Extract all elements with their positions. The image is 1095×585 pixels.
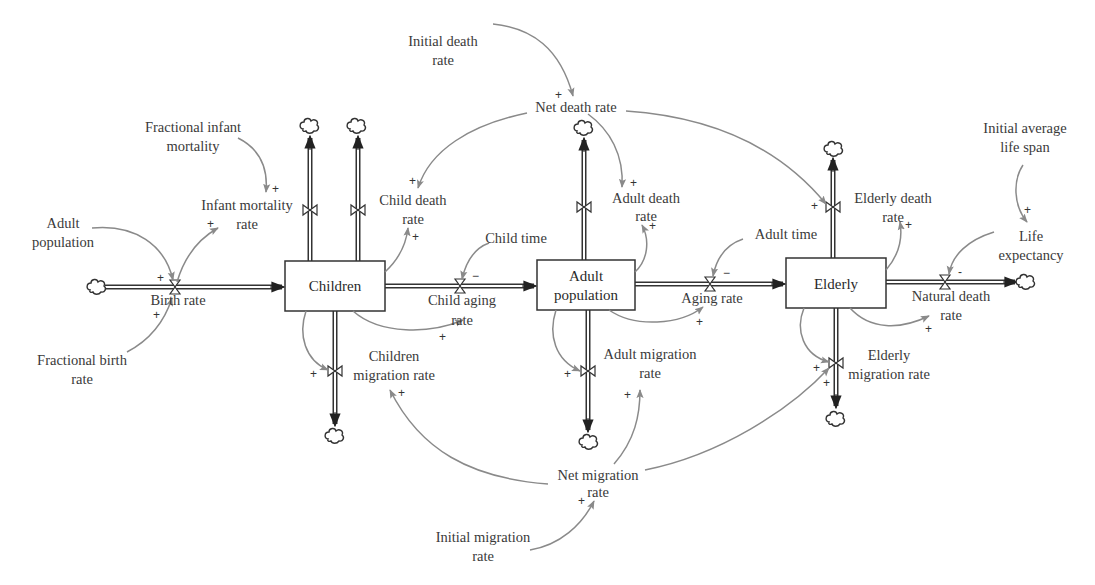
polarity-plus: + bbox=[813, 361, 820, 375]
polarity-plus: + bbox=[1024, 203, 1031, 217]
label-adult-migration-rate: rate bbox=[639, 365, 661, 381]
label-net-death-rate: Net death rate bbox=[535, 99, 616, 115]
polarity-plus: + bbox=[412, 230, 419, 244]
label-initial-average-life-span: Initial average bbox=[983, 120, 1066, 136]
label-infant-mortality-rate: rate bbox=[236, 216, 258, 232]
polarity-plus: + bbox=[153, 308, 160, 322]
label-elderly-migration-rate: migration rate bbox=[848, 366, 930, 382]
label-initial-death-rate: Initial death bbox=[408, 33, 478, 49]
label-infant-mortality-rate: Infant mortality bbox=[201, 197, 293, 213]
label-child-aging-rate: rate bbox=[451, 312, 473, 328]
sink-cloud-icon bbox=[347, 118, 365, 133]
sink-cloud-icon bbox=[579, 434, 597, 449]
label-child-death-rate: Child death bbox=[379, 192, 447, 208]
label-elderly-death-rate: rate bbox=[882, 209, 904, 225]
label-fractional-infant-mortality: Fractional infant bbox=[145, 119, 241, 135]
label-initial-migration-rate: Initial migration bbox=[436, 529, 531, 545]
polarity-plus: + bbox=[398, 386, 405, 400]
label-fractional-birth-rate: Fractional birth bbox=[37, 352, 128, 368]
stock-adult-population[interactable]: Adult population bbox=[537, 260, 635, 310]
sink-cloud-icon bbox=[325, 428, 343, 443]
flow-pipe-infant-mortality bbox=[300, 118, 318, 261]
label-child-time: Child time bbox=[485, 230, 547, 246]
label-initial-migration-rate: rate bbox=[472, 548, 494, 564]
sink-cloud-icon bbox=[574, 120, 592, 135]
polarity-plus: + bbox=[272, 182, 279, 196]
stock-label: Children bbox=[309, 278, 362, 294]
label-initial-death-rate: rate bbox=[432, 52, 454, 68]
source-cloud-icon bbox=[87, 279, 105, 294]
polarity-plus: + bbox=[310, 367, 317, 381]
flow-pipe-aging bbox=[635, 277, 785, 291]
flow-pipe-adult-death bbox=[574, 120, 592, 260]
sink-cloud-icon bbox=[826, 411, 844, 426]
sink-cloud-icon bbox=[824, 141, 842, 156]
flow-pipe-child-aging bbox=[385, 279, 536, 293]
label-adult-population-aux: Adult bbox=[46, 215, 79, 231]
label-adult-death-rate: Adult death bbox=[612, 190, 681, 206]
label-adult-migration-rate: Adult migration bbox=[603, 346, 697, 362]
polarity-plus: + bbox=[905, 218, 912, 232]
label-net-migration-rate: Net migration bbox=[558, 467, 640, 483]
stock-flow-diagram: Children Adult population Elderly bbox=[0, 0, 1095, 585]
label-children-migration-rate: Children bbox=[369, 348, 420, 364]
label-child-death-rate: rate bbox=[402, 211, 424, 227]
polarity-plus: + bbox=[811, 199, 818, 213]
polarity-plus: + bbox=[439, 330, 446, 344]
polarity-plus: + bbox=[157, 271, 164, 285]
polarity-plus: + bbox=[630, 176, 637, 190]
polarity-plus: + bbox=[578, 494, 585, 508]
polarity-plus: + bbox=[823, 376, 830, 390]
label-natural-death-rate: rate bbox=[940, 307, 962, 323]
polarity-minus: − bbox=[723, 266, 730, 280]
label-life-expectancy: Life bbox=[1019, 228, 1043, 244]
label-natural-death-rate: Natural death bbox=[912, 288, 991, 304]
stock-children[interactable]: Children bbox=[285, 261, 385, 311]
label-fractional-infant-mortality: mortality bbox=[166, 138, 220, 154]
label-adult-death-rate: rate bbox=[635, 208, 657, 224]
label-adult-population-aux: population bbox=[32, 234, 95, 250]
label-fractional-birth-rate: rate bbox=[71, 371, 93, 387]
polarity-plus: + bbox=[696, 315, 703, 329]
stock-label: Elderly bbox=[814, 276, 859, 292]
stock-label: population bbox=[554, 287, 619, 303]
label-children-migration-rate: migration rate bbox=[353, 367, 435, 383]
label-elderly-migration-rate: Elderly bbox=[868, 347, 911, 363]
flow-pipe-adult-migration bbox=[579, 310, 597, 449]
polarity-minus: - bbox=[958, 265, 962, 279]
polarity-minus: − bbox=[472, 269, 479, 283]
sink-cloud-icon bbox=[1016, 274, 1034, 289]
polarity-plus: + bbox=[207, 217, 214, 231]
flow-pipe-child-death bbox=[347, 118, 365, 261]
stock-elderly[interactable]: Elderly bbox=[786, 258, 886, 308]
label-elderly-death-rate: Elderly death bbox=[854, 190, 932, 206]
label-adult-time: Adult time bbox=[755, 226, 817, 242]
sink-cloud-icon bbox=[300, 118, 318, 133]
label-initial-average-life-span: life span bbox=[1000, 139, 1050, 155]
label-life-expectancy: expectancy bbox=[998, 247, 1064, 263]
polarity-plus: + bbox=[925, 322, 932, 336]
label-child-aging-rate: Child aging bbox=[428, 292, 496, 308]
polarity-plus: + bbox=[624, 388, 631, 402]
polarity-plus: + bbox=[564, 367, 571, 381]
flow-pipe-children-migration bbox=[325, 311, 343, 443]
label-net-migration-rate: rate bbox=[587, 484, 609, 500]
flow-pipe-elderly-death bbox=[824, 141, 842, 258]
label-aging-rate: Aging rate bbox=[681, 290, 743, 306]
stock-label: Adult bbox=[569, 268, 604, 284]
polarity-plus: + bbox=[409, 174, 416, 188]
label-birth-rate: Birth rate bbox=[150, 292, 205, 308]
flow-pipe-elderly-migration bbox=[826, 308, 844, 426]
